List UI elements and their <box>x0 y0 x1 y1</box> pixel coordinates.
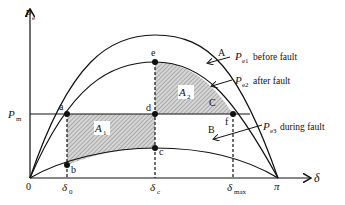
pi-label: π <box>274 180 280 192</box>
label-point-c: c <box>159 146 164 157</box>
origin-label: 0 <box>26 181 31 192</box>
svg-text:e2: e2 <box>242 81 249 89</box>
svg-text:0: 0 <box>69 188 73 196</box>
point-f <box>230 111 236 117</box>
svg-text:max: max <box>234 188 247 196</box>
svg-text:1: 1 <box>103 129 107 137</box>
svg-text:before fault: before fault <box>253 52 297 62</box>
pm-label: P m <box>7 108 22 123</box>
svg-text:P: P <box>7 108 15 120</box>
label-point-f: f <box>225 116 229 127</box>
svg-text:P: P <box>262 120 270 132</box>
point-c <box>152 145 158 151</box>
svg-text:c: c <box>157 188 160 196</box>
svg-text:e1: e1 <box>242 57 249 65</box>
annotation-pe1-before-fault: A P e1 before fault <box>208 47 297 65</box>
svg-text:after fault: after fault <box>253 76 291 86</box>
svg-text:P: P <box>234 50 242 62</box>
svg-text:P: P <box>234 74 242 86</box>
tick-deltamax: δ max <box>227 181 247 196</box>
label-point-b: b <box>71 164 76 175</box>
svg-text:B: B <box>208 124 215 135</box>
tick-deltac: δ c <box>150 181 160 196</box>
svg-text:δ: δ <box>150 181 156 193</box>
svg-text:2: 2 <box>187 93 191 101</box>
svg-text:during fault: during fault <box>280 122 325 132</box>
svg-text:e: e <box>32 14 35 22</box>
point-a <box>64 111 70 117</box>
label-point-a: a <box>59 101 64 112</box>
label-curve-c: C <box>209 97 216 108</box>
annotation-pe2-after-fault: P e2 after fault <box>212 74 291 89</box>
label-area-a2: A 2 <box>178 85 194 101</box>
svg-text:A: A <box>218 47 226 58</box>
point-d <box>152 111 158 117</box>
point-e <box>152 59 158 65</box>
label-area-a1: A 1 <box>94 121 110 137</box>
svg-text:m: m <box>16 115 22 123</box>
label-point-e: e <box>151 47 156 58</box>
svg-text:δ: δ <box>227 181 233 193</box>
point-b <box>64 162 70 168</box>
svg-text:A: A <box>178 86 186 98</box>
svg-text:P: P <box>24 7 32 19</box>
svg-text:e3: e3 <box>270 127 277 135</box>
tick-delta0: δ 0 <box>62 181 73 196</box>
svg-text:A: A <box>94 122 102 134</box>
svg-text:δ: δ <box>62 181 68 193</box>
power-angle-diagram: a b c d e f A 1 A 2 C P e P m 0 π δ δ 0 … <box>0 0 345 205</box>
label-point-d: d <box>146 102 151 113</box>
delta-axis-label: δ <box>314 171 320 185</box>
